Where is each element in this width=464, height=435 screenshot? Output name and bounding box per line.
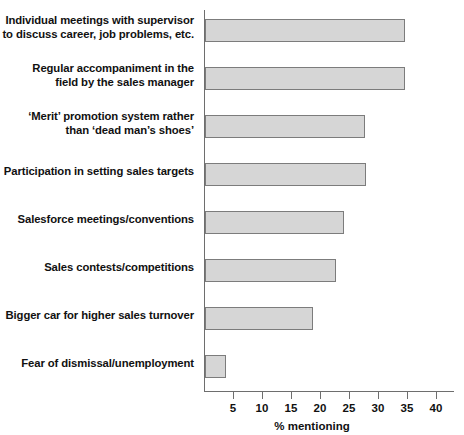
- x-tick-mark: [233, 392, 234, 399]
- bar: [205, 163, 366, 186]
- x-tick-mark: [291, 392, 292, 399]
- bar: [205, 307, 313, 330]
- bar: [205, 115, 365, 138]
- category-label: Individual meetings with supervisor to d…: [2, 14, 194, 41]
- x-tick-mark: [320, 392, 321, 399]
- category-label: Bigger car for higher sales turnover: [5, 309, 194, 323]
- x-tick-mark: [407, 392, 408, 399]
- bar: [205, 67, 405, 90]
- x-tick-label: 15: [285, 402, 298, 414]
- x-tick-mark: [262, 392, 263, 399]
- x-tick-label: 25: [343, 402, 356, 414]
- category-label: Regular accompaniment in the field by th…: [32, 62, 194, 89]
- x-tick-label: 35: [401, 402, 414, 414]
- category-label: Fear of dismissal/unemployment: [21, 357, 194, 371]
- x-tick-mark: [349, 392, 350, 399]
- category-label: Sales contests/competitions: [44, 261, 194, 275]
- bar: [205, 19, 405, 42]
- x-tick-label: 20: [314, 402, 327, 414]
- bar: [205, 259, 336, 282]
- category-label-column: Individual meetings with supervisor to d…: [0, 0, 200, 390]
- x-tick-mark: [378, 392, 379, 399]
- x-tick-label: 10: [256, 402, 269, 414]
- bar: [205, 211, 344, 234]
- x-tick-label: 5: [230, 402, 236, 414]
- bar-chart: Individual meetings with supervisor to d…: [0, 0, 464, 435]
- x-axis-line: [204, 391, 454, 392]
- x-tick-label: 40: [430, 402, 443, 414]
- category-label: ‘Merit’ promotion system rather than ‘de…: [28, 110, 194, 137]
- category-label: Salesforce meetings/conventions: [18, 213, 194, 227]
- x-tick-mark: [436, 392, 437, 399]
- category-label: Participation in setting sales targets: [4, 165, 194, 179]
- x-tick-label: 30: [372, 402, 385, 414]
- x-axis-label: % mentioning: [274, 420, 349, 432]
- bar: [205, 355, 226, 378]
- plot-area: 510152025303540 % mentioning: [204, 10, 456, 392]
